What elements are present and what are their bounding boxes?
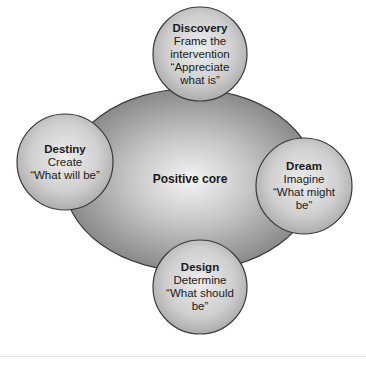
dream-node: Dream Imagine “What might be”: [256, 138, 352, 234]
design-line-2: “What should: [166, 287, 234, 300]
discovery-line-3: “Appreciate: [171, 61, 230, 74]
positive-core-label: Positive core: [120, 172, 260, 186]
discovery-title: Discovery: [173, 22, 228, 35]
bottom-divider: [0, 356, 366, 357]
design-line-3: be”: [192, 300, 209, 313]
design-line-1: Determine: [173, 274, 226, 287]
dream-line-2: “What might: [273, 186, 335, 199]
discovery-line-2: intervention: [170, 48, 229, 61]
design-node: Design Determine “What should be”: [153, 240, 247, 334]
destiny-title: Destiny: [44, 143, 86, 156]
destiny-node: Destiny Create “What will be”: [17, 114, 113, 210]
dream-line-3: be”: [296, 199, 313, 212]
dream-title: Dream: [286, 160, 322, 173]
destiny-line-2: “What will be”: [30, 169, 100, 182]
design-title: Design: [181, 261, 219, 274]
dream-line-1: Imagine: [284, 173, 325, 186]
discovery-node: Discovery Frame the intervention “Apprec…: [153, 5, 247, 103]
discovery-line-1: Frame the: [174, 35, 226, 48]
discovery-line-4: what is”: [180, 74, 220, 87]
destiny-line-1: Create: [48, 156, 83, 169]
